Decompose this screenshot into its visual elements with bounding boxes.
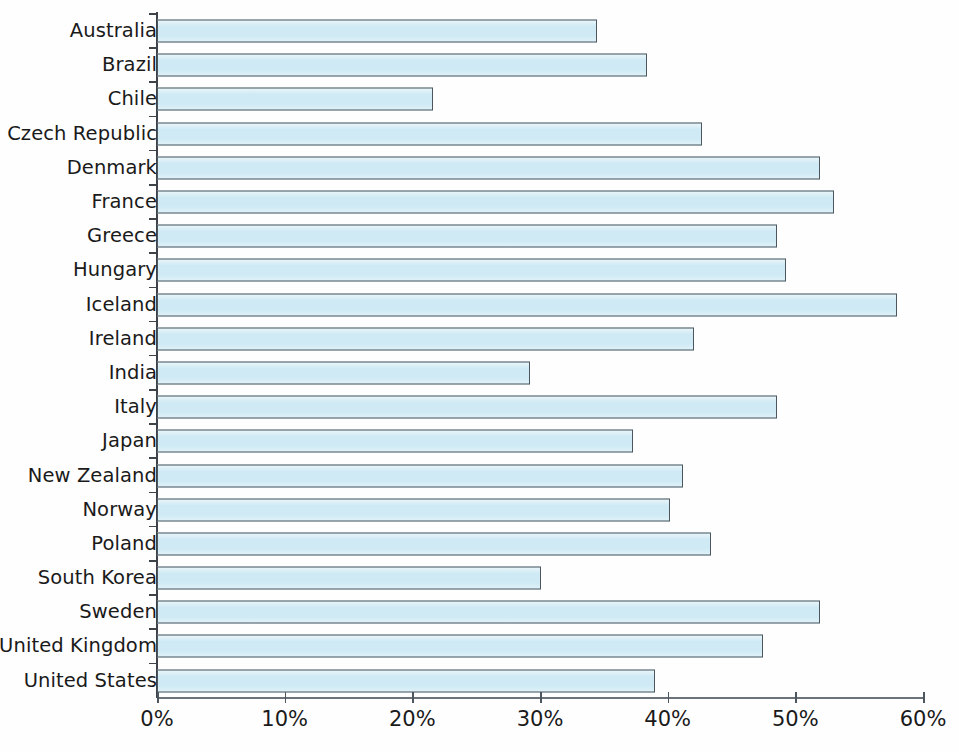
figure-caption [6, 740, 956, 752]
bar [157, 669, 655, 692]
category-tick [149, 116, 158, 118]
x-axis-tick [668, 692, 670, 703]
category-tick [149, 150, 158, 152]
bar [157, 567, 541, 590]
category-label: Poland [91, 532, 157, 555]
category-label: Italy [114, 395, 157, 418]
bar [157, 122, 702, 145]
bar [157, 498, 670, 521]
bar [157, 191, 834, 214]
bar [157, 20, 597, 43]
category-tick [149, 389, 158, 391]
bar-row: India [0, 356, 959, 390]
bar-row: United States [0, 664, 959, 698]
category-tick [149, 218, 158, 220]
x-axis-tick-label: 30% [517, 707, 564, 731]
x-axis-tick-label: 0% [140, 707, 173, 731]
x-axis-tick [157, 692, 159, 703]
category-label: Denmark [67, 156, 157, 179]
category-tick [149, 526, 158, 528]
category-label: Czech Republic [7, 122, 157, 145]
bar-row: Greece [0, 219, 959, 253]
bar-row: Brazil [0, 48, 959, 82]
bar-row: Czech Republic [0, 117, 959, 151]
bar-row: Denmark [0, 151, 959, 185]
bar [157, 156, 820, 179]
bar [157, 430, 633, 453]
bar [157, 635, 763, 658]
category-tick [149, 252, 158, 254]
bar [157, 54, 647, 77]
category-tick [149, 13, 158, 15]
category-tick [149, 423, 158, 425]
bar-row: Iceland [0, 288, 959, 322]
bar-row: New Zealand [0, 458, 959, 492]
category-tick [149, 184, 158, 186]
bar-row: Norway [0, 493, 959, 527]
category-tick [149, 287, 158, 289]
x-axis-tick-label: 20% [389, 707, 436, 731]
x-axis-tick-label: 10% [261, 707, 308, 731]
category-tick [149, 492, 158, 494]
category-label: India [109, 361, 157, 384]
bar [157, 532, 711, 555]
bar-row: Chile [0, 82, 959, 116]
bar [157, 293, 897, 316]
category-tick [149, 81, 158, 83]
category-label: Australia [70, 19, 157, 42]
category-label: New Zealand [28, 464, 157, 487]
x-axis-tick [540, 692, 542, 703]
category-label: United Kingdom [0, 635, 157, 658]
bar [157, 88, 433, 111]
category-label: Chile [108, 88, 157, 111]
category-label: South Korea [38, 566, 157, 589]
bar [157, 601, 820, 624]
bar-row: Japan [0, 424, 959, 458]
category-tick [149, 355, 158, 357]
category-tick [149, 663, 158, 665]
bar-chart: AustraliaBrazilChileCzech RepublicDenmar… [0, 0, 959, 752]
category-label: Ireland [89, 327, 157, 350]
bar-row: Poland [0, 527, 959, 561]
bar-row: Ireland [0, 322, 959, 356]
bar-row: United Kingdom [0, 629, 959, 663]
category-label: France [92, 190, 157, 213]
bar [157, 327, 694, 350]
bar-row: Italy [0, 390, 959, 424]
bar [157, 225, 777, 248]
x-axis-tick-label: 40% [644, 707, 691, 731]
x-axis-tick [795, 692, 797, 703]
category-label: Iceland [86, 293, 157, 316]
x-axis-tick [285, 692, 287, 703]
category-tick [149, 321, 158, 323]
bar-row: France [0, 185, 959, 219]
category-tick [149, 628, 158, 630]
bar [157, 259, 786, 282]
category-tick [149, 594, 158, 596]
x-axis-tick [923, 692, 925, 703]
category-tick [149, 560, 158, 562]
category-label: Sweden [79, 600, 157, 623]
bar-row: Hungary [0, 253, 959, 287]
category-label: Brazil [102, 53, 157, 76]
x-axis-tick-label: 50% [772, 707, 819, 731]
category-label: Japan [102, 429, 157, 452]
bar-row: Sweden [0, 595, 959, 629]
category-label: Norway [82, 498, 157, 521]
x-axis-tick [412, 692, 414, 703]
category-label: United States [24, 669, 157, 692]
category-label: Hungary [73, 258, 157, 281]
bar-rows: AustraliaBrazilChileCzech RepublicDenmar… [0, 14, 959, 698]
plot-area: AustraliaBrazilChileCzech RepublicDenmar… [0, 0, 959, 752]
category-label: Greece [87, 224, 157, 247]
bar [157, 361, 530, 384]
bar [157, 464, 683, 487]
category-tick [149, 457, 158, 459]
x-axis-tick-label: 60% [900, 707, 947, 731]
bar-row: South Korea [0, 561, 959, 595]
bar-row: Australia [0, 14, 959, 48]
category-tick [149, 47, 158, 49]
bar [157, 396, 777, 419]
